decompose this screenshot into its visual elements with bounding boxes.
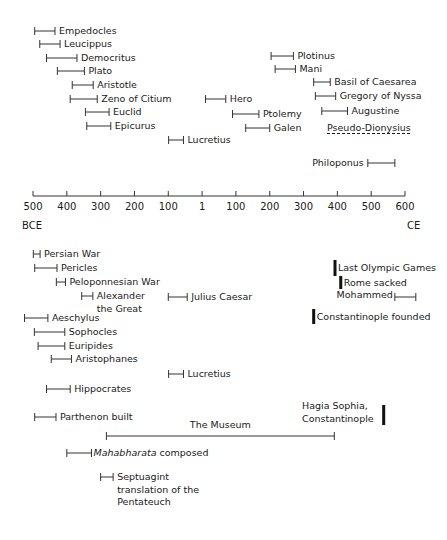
axis-tick-label: 100 (159, 201, 178, 212)
label-leucippus: Leucippus (64, 38, 112, 49)
label-euripides: Euripides (69, 340, 113, 351)
label-lucretius: Lucretius (187, 134, 230, 145)
axis-tick-label: 400 (328, 201, 347, 212)
label-constantinople-founded: Constantinople founded (317, 311, 431, 322)
label-rest-part: composed (157, 447, 209, 458)
label-julius-caesar: Julius Caesar (191, 291, 252, 302)
era-label-ce: CE (407, 220, 420, 231)
label-aristotle: Aristotle (97, 79, 137, 90)
label-augustine: Augustine (352, 105, 400, 116)
label-plotinus: Plotinus (297, 50, 335, 61)
label-the-museum: The Museum (190, 419, 251, 430)
label-aeschylus: Aeschylus (52, 312, 100, 323)
label-pericles: Pericles (61, 262, 97, 273)
label-line: Pentateuch (117, 496, 199, 509)
label-hero: Hero (230, 93, 253, 104)
axis-tick-label: 300 (91, 201, 110, 212)
label-democritus: Democritus (81, 52, 136, 63)
label-persian-war: Persian War (44, 248, 100, 259)
label-galen: Galen (274, 122, 302, 133)
label-hagia-sophia-constantinople: Hagia Sophia,Constantinople (302, 399, 374, 425)
label-line: Alexander (97, 290, 145, 303)
label-last-olympic-games: Last Olympic Games (338, 262, 436, 273)
label-philoponus: Philoponus (312, 157, 364, 168)
label-parthenon-built: Parthenon built (60, 411, 133, 422)
label-hippocrates: Hippocrates (74, 383, 131, 394)
axis-tick-label: 600 (395, 201, 414, 212)
event-marker-hagia-sophia-constantinople (382, 405, 385, 425)
label-euclid: Euclid (113, 106, 142, 117)
label-zeno-of-citium: Zeno of Citium (101, 93, 171, 104)
event-marker-last-olympic-games (333, 260, 336, 276)
axis-tick-label: 1 (199, 201, 205, 212)
label-line: Septuagint (117, 471, 199, 484)
label-ptolemy: Ptolemy (263, 108, 302, 119)
axis-tick-label: 100 (226, 201, 245, 212)
timeline-diagram: 5004003002001001100200300400500600BCECEE… (0, 0, 447, 540)
label-empedocles: Empedocles (59, 25, 117, 36)
label-mani: Mani (299, 63, 322, 74)
label-basil-of-caesarea: Basil of Caesarea (334, 76, 416, 87)
label-pseudo-dionysius: Pseudo-Dionysius (327, 122, 411, 133)
label-mahabharata-composed: Mahabharata composed (94, 447, 209, 458)
label-line: Hagia Sophia, (302, 399, 374, 412)
label-alexander-the-great: Alexanderthe Great (97, 290, 145, 315)
label-line: translation of the (117, 484, 199, 497)
axis-tick-label: 400 (57, 201, 76, 212)
label-peloponnesian-war: Peloponnesian War (69, 276, 159, 287)
label-mohammed: Mohammed (337, 289, 393, 300)
label-lucretius: Lucretius (187, 368, 230, 379)
axis-tick-label: 500 (23, 201, 42, 212)
event-marker-constantinople-founded (312, 309, 315, 324)
axis-tick-label: 500 (362, 201, 381, 212)
axis-tick-label: 200 (125, 201, 144, 212)
event-marker-rome-sacked (339, 276, 342, 289)
label-aristophanes: Aristophanes (76, 353, 138, 364)
label-line: Constantinople (302, 412, 374, 425)
label-italic-part: Mahabharata (94, 447, 157, 458)
label-line: the Great (97, 303, 145, 316)
label-gregory-of-nyssa: Gregory of Nyssa (340, 90, 422, 101)
label-plato: Plato (88, 65, 112, 76)
label-rome-sacked: Rome sacked (344, 277, 407, 288)
label-septuagint-translation-of-the-pentateuch: Septuaginttranslation of thePentateuch (117, 471, 199, 509)
label-epicurus: Epicurus (115, 120, 156, 131)
axis-tick-label: 200 (260, 201, 279, 212)
label-sophocles: Sophocles (69, 326, 117, 337)
axis-tick-label: 300 (294, 201, 313, 212)
era-label-bce: BCE (22, 220, 42, 231)
